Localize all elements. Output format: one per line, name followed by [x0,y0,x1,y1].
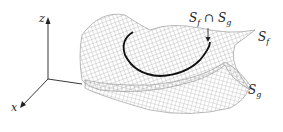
z-axis-label: z [39,12,45,25]
x-axis [22,79,48,106]
surface-g-label: Sg [248,83,261,99]
y-axis [48,79,82,84]
intersection-label: Sf ∩ Sg [189,11,231,27]
x-axis-label: x [11,101,17,114]
surface-f-label: Sf [258,30,269,46]
